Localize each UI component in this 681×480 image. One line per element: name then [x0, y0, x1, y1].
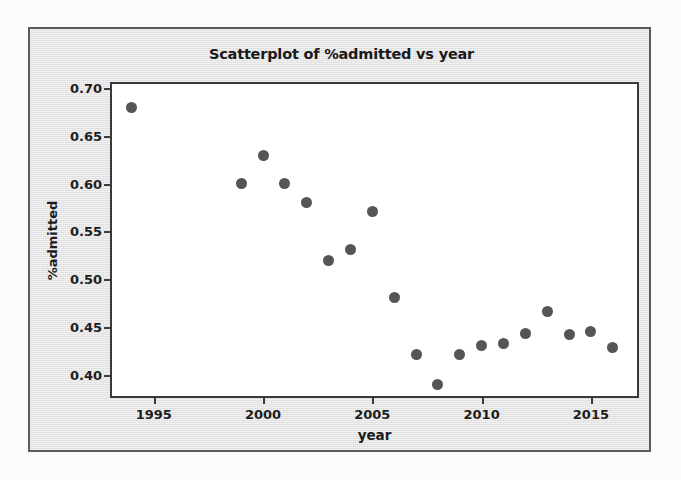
scatter-point — [520, 328, 531, 339]
scatter-point — [367, 206, 378, 217]
scatter-point — [389, 292, 400, 303]
x-axis-tick-mark — [372, 398, 374, 404]
chart-title: Scatterplot of %admitted vs year — [30, 46, 653, 62]
y-axis-tick-label: 0.40 — [56, 367, 102, 382]
x-axis-tick-mark — [263, 398, 265, 404]
scatter-point — [432, 379, 443, 390]
scatter-point — [454, 349, 465, 360]
x-axis-tick-label: 2000 — [233, 407, 293, 422]
plot-area — [110, 82, 639, 398]
x-axis-tick-mark — [482, 398, 484, 404]
scatter-point — [323, 255, 334, 266]
x-axis-tick-label: 2015 — [561, 407, 621, 422]
x-axis-title: year — [110, 427, 639, 443]
scanned-page: Scatterplot of %admitted vs year %admitt… — [0, 0, 681, 480]
y-axis-tick-label: 0.70 — [56, 81, 102, 96]
scatter-point — [279, 178, 290, 189]
scatter-point — [345, 244, 356, 255]
scatter-point — [411, 349, 422, 360]
x-axis-tick-mark — [591, 398, 593, 404]
scatter-point — [258, 150, 269, 161]
scatter-point — [498, 338, 509, 349]
x-axis-tick-mark — [154, 398, 156, 404]
y-axis-tick-label: 0.45 — [56, 319, 102, 334]
x-axis-tick-label: 2005 — [342, 407, 402, 422]
scatter-point — [126, 102, 137, 113]
x-axis-tick-label: 1995 — [124, 407, 184, 422]
scatter-point — [236, 178, 247, 189]
y-axis-tick-label: 0.50 — [56, 272, 102, 287]
scan-ghost-text — [400, 2, 580, 16]
scatter-point — [564, 329, 575, 340]
y-axis-title-label: %admitted — [46, 200, 61, 280]
scatter-point — [476, 340, 487, 351]
x-axis-tick-label: 2010 — [452, 407, 512, 422]
scatter-point — [301, 197, 312, 208]
y-axis-tick-label: 0.65 — [56, 128, 102, 143]
y-axis-tick-label: 0.60 — [56, 176, 102, 191]
scatter-point — [607, 342, 618, 353]
chart-figure: Scatterplot of %admitted vs year %admitt… — [28, 27, 651, 452]
y-axis-tick-label: 0.55 — [56, 224, 102, 239]
scatter-point — [542, 306, 553, 317]
scatter-point — [585, 326, 596, 337]
